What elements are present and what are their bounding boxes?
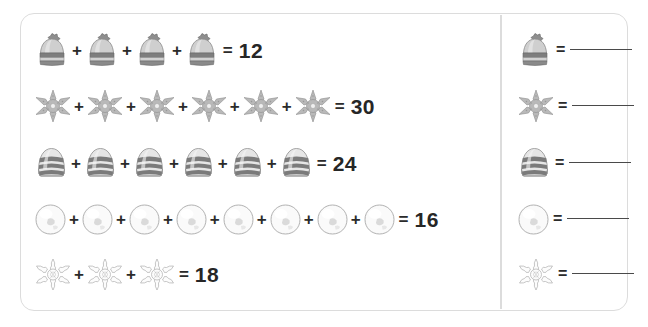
white-snowflake-icon bbox=[87, 258, 123, 291]
glitter-snowflake-icon bbox=[295, 89, 331, 123]
striped-beanie-icon bbox=[84, 147, 117, 179]
glitter-snowflake-icon bbox=[518, 89, 554, 123]
worksheet-panel: +++=12+++++=30+++++=24+++++++=16++=18 ==… bbox=[20, 13, 628, 311]
striped-beanie-icon bbox=[518, 147, 551, 179]
answer-blank-input[interactable] bbox=[569, 161, 631, 163]
equation-row: +++++=30 bbox=[35, 80, 375, 132]
answer-key-row: = bbox=[518, 137, 631, 189]
equals-operator: = bbox=[553, 211, 562, 227]
snowball-icon bbox=[364, 204, 395, 235]
equation-total: 30 bbox=[351, 96, 375, 117]
equals-operator: = bbox=[399, 211, 409, 228]
answer-blank-input[interactable] bbox=[570, 48, 632, 50]
plus-operator: + bbox=[169, 155, 179, 172]
plus-operator: + bbox=[304, 211, 314, 228]
white-snowflake-icon bbox=[518, 258, 554, 291]
answer-key-row: = bbox=[518, 80, 634, 132]
white-snowflake-icon bbox=[139, 258, 175, 291]
equation-total: 12 bbox=[239, 40, 263, 61]
white-snowflake-icon bbox=[35, 258, 71, 291]
snowball-icon bbox=[270, 204, 301, 235]
answer-blank-input[interactable] bbox=[572, 272, 634, 274]
striped-beanie-icon bbox=[182, 147, 215, 179]
plus-operator: + bbox=[74, 266, 84, 283]
equals-operator: = bbox=[317, 155, 327, 172]
plus-operator: + bbox=[69, 211, 79, 228]
plus-operator: + bbox=[178, 98, 188, 115]
snowball-icon bbox=[223, 204, 254, 235]
snowball-icon bbox=[129, 204, 160, 235]
winter-hat-pompom-icon bbox=[85, 32, 119, 68]
plus-operator: + bbox=[126, 98, 136, 115]
glitter-snowflake-icon bbox=[87, 89, 123, 123]
snowball-icon bbox=[82, 204, 113, 235]
plus-operator: + bbox=[172, 42, 182, 59]
plus-operator: + bbox=[120, 155, 130, 172]
striped-beanie-icon bbox=[35, 147, 68, 179]
equals-operator: = bbox=[558, 266, 567, 282]
equation-row: +++=12 bbox=[35, 24, 263, 76]
answer-blank-input[interactable] bbox=[567, 217, 629, 219]
snowball-icon bbox=[176, 204, 207, 235]
answer-key-row: = bbox=[518, 193, 629, 245]
equation-row: ++=18 bbox=[35, 248, 219, 300]
glitter-snowflake-icon bbox=[191, 89, 227, 123]
equation-total: 18 bbox=[195, 264, 219, 285]
plus-operator: + bbox=[230, 98, 240, 115]
equals-operator: = bbox=[179, 266, 189, 283]
plus-operator: + bbox=[126, 266, 136, 283]
equation-total: 16 bbox=[415, 209, 439, 230]
plus-operator: + bbox=[351, 211, 361, 228]
striped-beanie-icon bbox=[280, 147, 313, 179]
equation-row: +++++++=16 bbox=[35, 193, 439, 245]
plus-operator: + bbox=[71, 155, 81, 172]
answer-key-row: = bbox=[518, 24, 632, 76]
winter-hat-pompom-icon bbox=[35, 32, 69, 68]
plus-operator: + bbox=[282, 98, 292, 115]
glitter-snowflake-icon bbox=[35, 89, 71, 123]
glitter-snowflake-icon bbox=[139, 89, 175, 123]
plus-operator: + bbox=[163, 211, 173, 228]
plus-operator: + bbox=[122, 42, 132, 59]
plus-operator: + bbox=[74, 98, 84, 115]
snowball-icon bbox=[518, 204, 549, 235]
winter-hat-pompom-icon bbox=[518, 32, 552, 68]
answer-key-column: ===== bbox=[502, 14, 629, 310]
snowball-icon bbox=[35, 204, 66, 235]
equations-column: +++=12+++++=30+++++=24+++++++=16++=18 bbox=[21, 14, 500, 310]
equals-operator: = bbox=[223, 42, 233, 59]
winter-hat-pompom-icon bbox=[135, 32, 169, 68]
striped-beanie-icon bbox=[231, 147, 264, 179]
plus-operator: + bbox=[218, 155, 228, 172]
plus-operator: + bbox=[72, 42, 82, 59]
plus-operator: + bbox=[257, 211, 267, 228]
snowball-icon bbox=[317, 204, 348, 235]
equals-operator: = bbox=[556, 42, 565, 58]
plus-operator: + bbox=[267, 155, 277, 172]
equation-row: +++++=24 bbox=[35, 137, 357, 189]
answer-key-row: = bbox=[518, 248, 634, 300]
glitter-snowflake-icon bbox=[243, 89, 279, 123]
answer-blank-input[interactable] bbox=[572, 104, 634, 106]
equals-operator: = bbox=[555, 155, 564, 171]
plus-operator: + bbox=[116, 211, 126, 228]
equals-operator: = bbox=[335, 98, 345, 115]
equation-total: 24 bbox=[333, 153, 357, 174]
winter-hat-pompom-icon bbox=[185, 32, 219, 68]
plus-operator: + bbox=[210, 211, 220, 228]
equals-operator: = bbox=[558, 98, 567, 114]
striped-beanie-icon bbox=[133, 147, 166, 179]
